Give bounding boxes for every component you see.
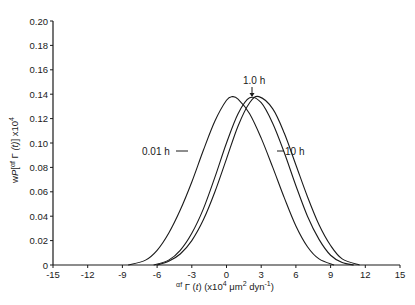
curves xyxy=(128,96,359,265)
y-tick-label: 0.10 xyxy=(30,138,49,149)
x-tick-label: 3 xyxy=(259,269,264,280)
x-tick-label: 12 xyxy=(360,269,371,280)
y-tick-label: 0.18 xyxy=(30,40,49,51)
arrow-down-icon xyxy=(250,93,255,97)
x-tick-label: -12 xyxy=(81,269,95,280)
x-tick-label: 15 xyxy=(395,269,406,280)
y-tick-label: 0.08 xyxy=(30,162,49,173)
x-tick-label: -3 xyxy=(188,269,196,280)
x-tick-label: 9 xyxy=(328,269,333,280)
distribution-chart: 00.020.040.060.080.100.120.140.160.180.2… xyxy=(0,0,415,305)
x-tick-label: -9 xyxy=(118,269,126,280)
y-tick-label: 0.14 xyxy=(30,89,49,100)
x-tick-label: -15 xyxy=(46,269,60,280)
x-axis-title: αf Γ (t) (x104 μm2 dyn-1) xyxy=(176,280,274,292)
ticks: 00.020.040.060.080.100.120.140.160.180.2… xyxy=(30,16,406,281)
y-tick-label: 0.04 xyxy=(30,211,49,222)
annotations: 0.01 h 1.0 h 10 h xyxy=(142,75,304,157)
y-tick-label: 0.02 xyxy=(30,235,49,246)
x-tick-label: 6 xyxy=(293,269,298,280)
x-tick-label: -6 xyxy=(153,269,161,280)
annotation-1-0h: 1.0 h xyxy=(243,75,265,86)
y-axis-title: wP[αf Γ (t)] x104 xyxy=(8,117,20,184)
curve-0-01-h xyxy=(128,97,334,265)
y-tick-label: 0.12 xyxy=(30,113,49,124)
x-tick-label: 0 xyxy=(224,269,229,280)
y-tick-label: 0.06 xyxy=(30,186,49,197)
y-tick-label: 0.16 xyxy=(30,64,49,75)
y-tick-label: 0.20 xyxy=(30,16,49,27)
annotation-0-01h: 0.01 h xyxy=(142,146,170,157)
annotation-10h: 10 h xyxy=(285,146,304,157)
